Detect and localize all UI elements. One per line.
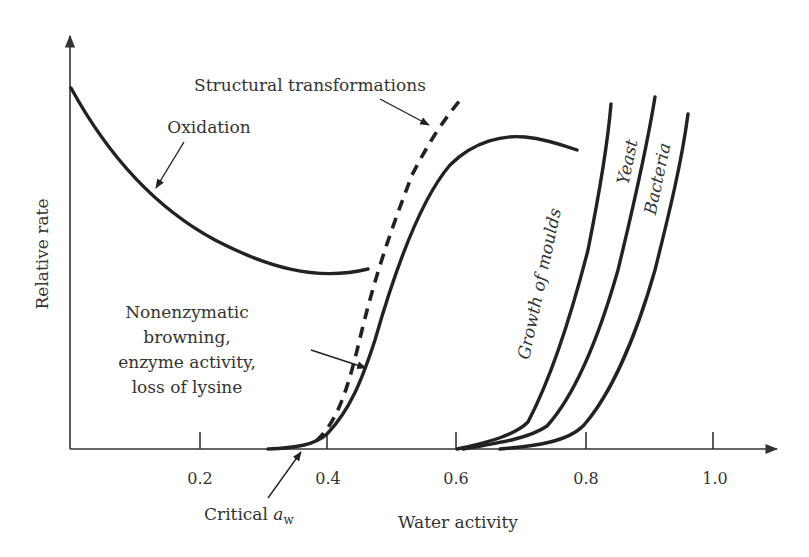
tick-label-0.4: 0.4: [315, 469, 340, 488]
tick-label-0.2: 0.2: [187, 469, 212, 488]
y-axis-label: Relative rate: [32, 199, 52, 310]
browning-label: Nonenzymatic browning, enzyme activity, …: [118, 302, 256, 397]
oxidation-arrow: [156, 142, 184, 188]
critical-aw-arrow: [268, 452, 301, 498]
x-ticks: [200, 432, 713, 449]
water-activity-chart: 0.2 0.4 0.6 0.8 1.0 Relative rate Water …: [0, 0, 809, 557]
structural-transformations-arrow: [380, 99, 429, 125]
browning-label-line-2: browning,: [143, 327, 230, 347]
x-axis-label: Water activity: [398, 512, 518, 532]
moulds-label: Growth of moulds: [513, 206, 565, 361]
structural-transformations-label: Structural transformations: [194, 75, 426, 95]
x-tick-labels: 0.2 0.4 0.6 0.8 1.0: [187, 469, 727, 488]
critical-aw-label: Critical aw: [204, 504, 294, 527]
tick-label-1.0: 1.0: [702, 469, 727, 488]
browning-label-line-4: loss of lysine: [132, 377, 243, 397]
browning-label-line-3: enzyme activity,: [118, 352, 256, 372]
oxidation-curve: [71, 88, 368, 274]
structural-transformations-curve: [316, 98, 462, 441]
oxidation-label: Oxidation: [167, 117, 250, 137]
browning-label-line-1: Nonenzymatic: [125, 302, 249, 322]
tick-label-0.8: 0.8: [573, 469, 598, 488]
tick-label-0.6: 0.6: [443, 469, 468, 488]
yeast-label: Yeast: [613, 137, 642, 186]
